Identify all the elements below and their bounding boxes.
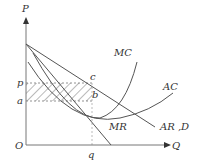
monopoly-diagram: P Q O p a q c b MC AC MR AR ,D — [0, 0, 203, 166]
x-axis-label: Q — [172, 140, 180, 151]
price-a-label: a — [17, 95, 23, 106]
ac-curve — [28, 62, 173, 119]
mc-label: MC — [113, 47, 132, 58]
x-axis-arrow-icon — [164, 142, 171, 148]
y-axis-arrow-icon — [23, 17, 29, 24]
ac-label: AC — [162, 81, 178, 92]
origin-label: O — [15, 140, 23, 151]
mr-label: MR — [108, 121, 127, 132]
ar-d-label: AR ,D — [159, 121, 189, 132]
quantity-q-label: q — [88, 149, 94, 160]
point-c-label: c — [90, 71, 96, 82]
point-b-label: b — [92, 89, 98, 100]
y-axis-label: P — [21, 3, 29, 14]
price-p-label: p — [17, 77, 24, 88]
